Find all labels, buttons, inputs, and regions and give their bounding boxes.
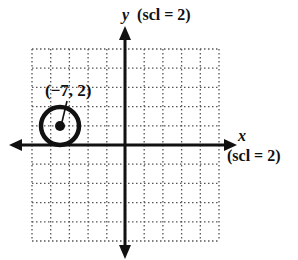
y-axis-down-arrow-icon	[119, 245, 131, 259]
x-axis-scale: (scl = 2)	[227, 147, 281, 165]
y-axis-scale: (scl = 2)	[137, 6, 191, 24]
center-point	[55, 121, 65, 131]
x-axis-left-arrow-icon	[9, 139, 22, 151]
y-axis-var: y	[120, 6, 130, 24]
x-axis-var: x	[237, 127, 246, 144]
y-axis-label: y (scl = 2)	[120, 6, 191, 24]
label-leader-line	[62, 101, 67, 122]
y-axis-up-arrow-icon	[119, 26, 131, 40]
coordinate-plane: (−7, 2) y (scl = 2) x (scl = 2)	[0, 0, 298, 260]
point-label: (−7, 2)	[45, 81, 92, 100]
